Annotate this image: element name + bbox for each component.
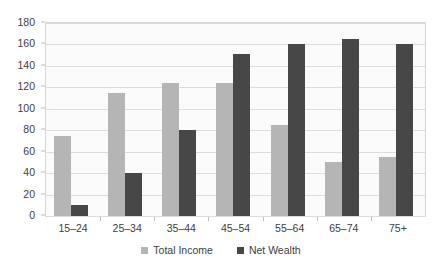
bar <box>396 44 413 216</box>
x-tick-label: 75+ <box>389 222 407 235</box>
y-tick-label: 0 <box>29 210 35 221</box>
y-tick-label: 40 <box>23 167 35 178</box>
legend-label: Total Income <box>153 244 213 256</box>
x-tick-mark <box>208 217 209 221</box>
bar <box>54 136 71 216</box>
legend-item[interactable]: Total Income <box>141 244 213 256</box>
y-tick-mark <box>41 129 45 130</box>
bar-group <box>154 23 208 216</box>
bar-group <box>208 23 262 216</box>
bar <box>379 157 396 216</box>
bar <box>325 162 342 216</box>
x-tick-label: 55–64 <box>275 222 304 235</box>
x-tick-label: 25–34 <box>113 222 142 235</box>
bars-layer <box>46 23 425 216</box>
y-tick-label: 80 <box>23 124 35 135</box>
bar <box>179 130 196 216</box>
y-tick-mark <box>41 215 45 216</box>
bar <box>233 54 250 216</box>
bar-group <box>371 23 425 216</box>
bar <box>216 83 233 216</box>
bar <box>271 125 288 216</box>
bar <box>71 205 88 216</box>
y-tick-label: 60 <box>23 145 35 156</box>
y-axis: 020406080100120140160180 <box>0 22 40 217</box>
x-axis: 15–2425–3435–4445–5455–6465–7475+ <box>46 222 425 238</box>
legend-label: Net Wealth <box>249 244 301 256</box>
y-tick-mark <box>41 22 45 23</box>
legend-swatch-icon <box>141 247 148 254</box>
x-tick-label: 65–74 <box>329 222 358 235</box>
bar <box>288 44 305 216</box>
y-tick-label: 180 <box>17 17 35 28</box>
bar <box>108 93 125 216</box>
x-tick-label: 35–44 <box>167 222 196 235</box>
x-tick-mark <box>154 217 155 221</box>
bar-group <box>100 23 154 216</box>
y-tick-mark <box>41 150 45 151</box>
x-tick-label: 15–24 <box>58 222 87 235</box>
y-tick-mark <box>41 64 45 65</box>
bar <box>342 39 359 216</box>
x-tick-mark <box>371 217 372 221</box>
gridline <box>46 216 425 217</box>
y-tick-label: 140 <box>17 59 35 70</box>
bar <box>125 173 142 216</box>
y-tick-label: 20 <box>23 188 35 199</box>
bar-group <box>317 23 371 216</box>
x-tick-label: 45–54 <box>221 222 250 235</box>
y-tick-mark <box>41 172 45 173</box>
legend: Total IncomeNet Wealth <box>0 244 442 256</box>
x-tick-mark <box>317 217 318 221</box>
y-tick-mark <box>41 43 45 44</box>
y-tick-label: 120 <box>17 81 35 92</box>
bar-group <box>46 23 100 216</box>
bar <box>162 83 179 216</box>
x-tick-mark <box>263 217 264 221</box>
legend-swatch-icon <box>237 247 244 254</box>
bar-chart: 020406080100120140160180 15–2425–3435–44… <box>0 0 442 267</box>
y-tick-mark <box>41 86 45 87</box>
bar-group <box>263 23 317 216</box>
y-tick-label: 160 <box>17 38 35 49</box>
y-tick-label: 100 <box>17 102 35 113</box>
y-tick-mark <box>41 107 45 108</box>
legend-item[interactable]: Net Wealth <box>237 244 301 256</box>
y-tick-mark <box>41 193 45 194</box>
x-tick-mark <box>100 217 101 221</box>
